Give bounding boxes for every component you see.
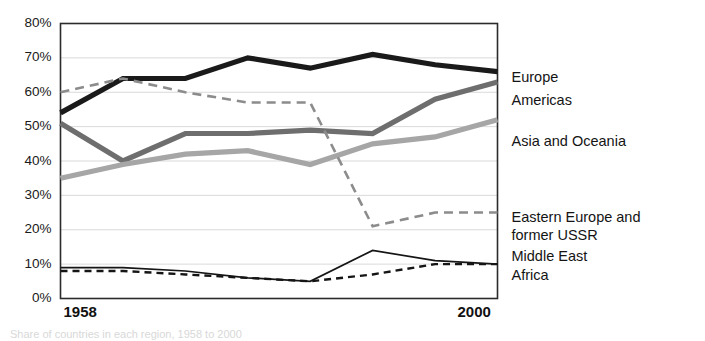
legend-label-4: former USSR — [512, 227, 598, 243]
chart-canvas: 80%70%60%50%40%30%20%10%0% 19582000 Euro… — [0, 0, 705, 341]
legend-label-0: Europe — [512, 69, 559, 85]
figure-caption-strip: Share of countries in each region, 1958 … — [0, 327, 705, 341]
x-axis-label-1958: 1958 — [64, 303, 97, 320]
y-axis-label-1: 70% — [24, 49, 51, 64]
y-axis-label-4: 40% — [24, 153, 51, 168]
y-axis-label-5: 30% — [24, 187, 51, 202]
y-axis-label-7: 10% — [24, 256, 51, 271]
y-axis-tick-labels: 80%70%60%50%40%30%20%10%0% — [24, 15, 51, 305]
y-axis-label-8: 0% — [32, 290, 52, 305]
legend-label-2: Asia and Oceania — [512, 133, 627, 149]
legend-label-5: Middle East — [512, 248, 588, 264]
legend-label-3: Eastern Europe and — [512, 209, 641, 225]
series-line-europe — [61, 54, 498, 112]
y-axis-label-3: 50% — [24, 118, 51, 133]
series-line-asia-and-oceania — [61, 120, 498, 178]
y-axis-label-6: 20% — [24, 221, 51, 236]
x-axis-label-2000: 2000 — [458, 303, 491, 320]
series-line-americas — [61, 82, 498, 161]
y-axis-label-0: 80% — [24, 15, 51, 30]
legend-label-1: Americas — [512, 92, 572, 108]
x-axis-tick-labels: 19582000 — [64, 303, 491, 320]
chart-legend: EuropeAmericasAsia and OceaniaEastern Eu… — [512, 69, 641, 283]
legend-label-6: Africa — [512, 267, 550, 283]
series-line-africa — [61, 264, 498, 281]
y-axis-label-2: 60% — [24, 84, 51, 99]
line-chart-figure: 80%70%60%50%40%30%20%10%0% 19582000 Euro… — [0, 0, 705, 341]
figure-caption: Share of countries in each region, 1958 … — [0, 327, 705, 341]
data-series-lines — [61, 54, 498, 281]
